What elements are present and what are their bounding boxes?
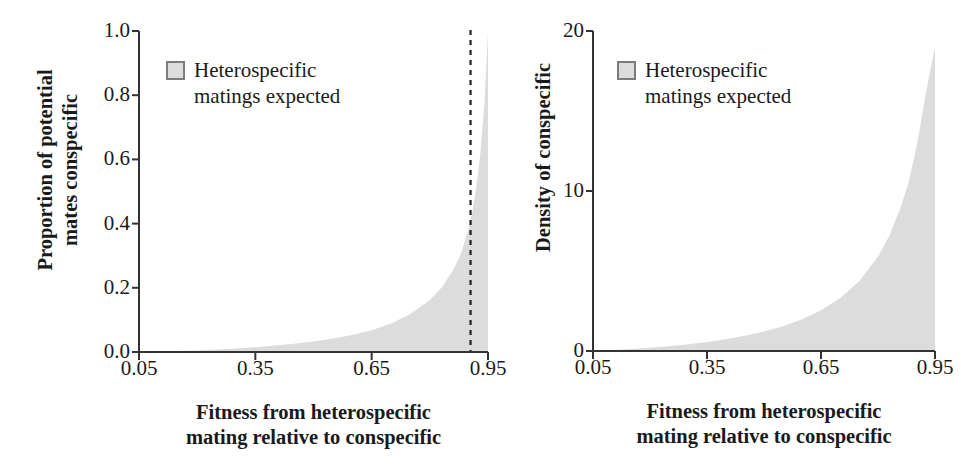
y-tick-label: 10 xyxy=(475,180,584,201)
y-axis-title-line: Density of conspecific xyxy=(531,28,556,288)
x-axis-title-left: Fitness from heterospecificmating relati… xyxy=(139,400,488,450)
y-tick-label: 0.0 xyxy=(0,341,130,362)
x-axis-title-line: Fitness from heterospecific xyxy=(139,400,488,425)
x-tick-label: 0.65 xyxy=(353,358,390,379)
legend-label: Heterospecific matings expected xyxy=(645,57,791,109)
legend-label: Heterospecific matings expected xyxy=(194,57,340,109)
x-tick-label: 0.05 xyxy=(575,357,612,378)
x-tick-label: 0.35 xyxy=(689,357,726,378)
legend-swatch-icon xyxy=(166,61,185,80)
x-tick-label: 0.95 xyxy=(917,357,954,378)
y-axis-title-left: Proportion of potentialmates conspecific xyxy=(33,20,83,320)
panel-left: 0.00.20.40.60.81.0 0.050.350.650.95 Prop… xyxy=(0,0,500,474)
x-tick-label: 0.35 xyxy=(237,358,274,379)
x-axis-title-right: Fitness from heterospecificmating relati… xyxy=(593,399,935,449)
panel-right: 01020 0.050.350.650.95 Density of conspe… xyxy=(475,0,975,474)
y-axis-title-right: Density of conspecific xyxy=(531,28,556,288)
legend-swatch-icon xyxy=(617,61,636,80)
y-axis-title-line: mates conspecific xyxy=(58,20,83,320)
legend-right: Heterospecific matings expected xyxy=(617,57,867,109)
y-tick-label: 20 xyxy=(475,20,584,41)
legend-left: Heterospecific matings expected xyxy=(166,57,416,109)
y-tick-label: 0 xyxy=(475,340,584,361)
figure-two-panel: 0.00.20.40.60.81.0 0.050.350.650.95 Prop… xyxy=(0,0,975,474)
x-axis-title-line: mating relative to conspecific xyxy=(593,424,935,449)
x-tick-label: 0.05 xyxy=(121,358,158,379)
x-axis-title-line: mating relative to conspecific xyxy=(139,425,488,450)
y-axis-title-line: Proportion of potential xyxy=(33,20,58,320)
x-axis-title-line: Fitness from heterospecific xyxy=(593,399,935,424)
x-tick-label: 0.65 xyxy=(803,357,840,378)
